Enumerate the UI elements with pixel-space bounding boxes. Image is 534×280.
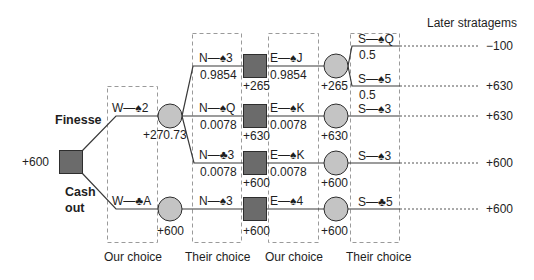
cash-out-label-line2: out xyxy=(65,201,84,215)
outcome-value: +600 xyxy=(486,156,513,170)
probability: 0.5 xyxy=(359,88,376,102)
root-decision-node xyxy=(60,151,83,174)
probability: 0.0078 xyxy=(200,165,237,179)
move-label: N—♣3 xyxy=(199,148,234,162)
decision-node-row3 xyxy=(244,152,267,175)
probability: 0.0078 xyxy=(270,118,307,132)
move-label: W—♠2 xyxy=(112,101,148,115)
node-value: +600 xyxy=(321,176,348,190)
node-value: +630 xyxy=(243,129,270,143)
node-value: +265 xyxy=(321,79,348,93)
chance-node-row1 xyxy=(324,54,348,78)
move-label: E—♠K xyxy=(270,148,304,162)
root-value: +600 xyxy=(22,155,49,169)
chance-node-finesse xyxy=(158,104,182,128)
node-value: +630 xyxy=(321,129,348,143)
column-caption-our-choice-2: Our choice xyxy=(265,250,323,264)
finesse-label: Finesse xyxy=(55,113,102,127)
move-label: E—♠J xyxy=(270,51,302,65)
probability: 0.0078 xyxy=(200,118,237,132)
decision-node-row2 xyxy=(244,105,267,128)
node-value: +600 xyxy=(243,224,270,238)
probability: 0.5 xyxy=(359,48,376,62)
node-value: +600 xyxy=(157,224,184,238)
move-label: W—♣A xyxy=(112,194,151,208)
move-label: S—♠Q xyxy=(358,32,394,46)
move-label: N—♠3 xyxy=(199,51,233,65)
decision-node-row4 xyxy=(244,198,267,221)
node-value: +265 xyxy=(243,79,270,93)
node-value: +600 xyxy=(243,176,270,190)
cash-out-label-line1: Cash xyxy=(65,185,96,199)
later-stratagems-title: Later stratagems xyxy=(427,16,517,30)
chance-node-cash-out xyxy=(158,197,182,221)
node-value: +270.73 xyxy=(143,128,187,142)
outcome-value: +630 xyxy=(486,79,513,93)
outcome-value: +600 xyxy=(486,202,513,216)
probability: 0.9854 xyxy=(270,68,307,82)
chance-node-row4 xyxy=(324,197,348,221)
column-caption-our-choice-1: Our choice xyxy=(104,250,162,264)
column-caption-their-choice-1: Their choice xyxy=(185,250,250,264)
move-label: E—♠K xyxy=(270,101,304,115)
move-label: N—♠3 xyxy=(199,194,233,208)
node-value: +600 xyxy=(321,224,348,238)
outcome-value: +630 xyxy=(486,109,513,123)
probability: 0.0078 xyxy=(270,165,307,179)
move-label: N—♠Q xyxy=(199,101,235,115)
decision-node-row1 xyxy=(244,55,267,78)
probability: 0.9854 xyxy=(200,68,237,82)
column-caption-their-choice-2: Their choice xyxy=(346,250,411,264)
chance-node-row2 xyxy=(324,104,348,128)
move-label: E—♠4 xyxy=(270,194,303,208)
move-label: S—♠3 xyxy=(358,149,391,163)
outcome-value: −100 xyxy=(486,39,513,53)
move-label: S—♠3 xyxy=(358,102,391,116)
chance-node-row3 xyxy=(324,151,348,175)
column-box-their-choice-2 xyxy=(351,34,400,243)
move-label: S—♣5 xyxy=(358,195,393,209)
move-label: S—♠5 xyxy=(358,72,391,86)
